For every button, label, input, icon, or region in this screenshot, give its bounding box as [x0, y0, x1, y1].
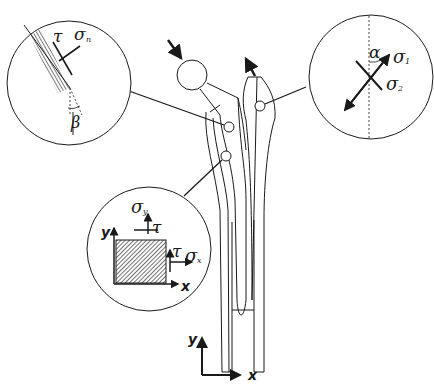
alpha-label: α [369, 42, 381, 62]
beta-label: β [70, 113, 80, 132]
detail-right: α σ 1 σ 2 [309, 15, 433, 139]
sigma-x-subscript: x [197, 256, 202, 265]
muscle-force-arrow [246, 59, 255, 76]
point-bottom [221, 151, 231, 161]
tau-label: τ [53, 26, 63, 46]
detail-left: τ σ n β [7, 21, 131, 145]
global-x-label: x [247, 367, 258, 383]
sigma-n-label: σ [74, 24, 86, 44]
leader-right [265, 87, 306, 104]
sigma1-subscript: 1 [405, 57, 410, 66]
point-left [224, 122, 234, 132]
tau-right-label: τ [172, 241, 182, 261]
point-right [255, 101, 265, 111]
detail-bottom: y x σ y τ τ σ x [87, 187, 211, 311]
sigma-y-subscript: y [142, 207, 148, 216]
femoral-head [177, 60, 207, 90]
leader-bottom [184, 160, 222, 196]
global-y-label: y [188, 331, 198, 347]
sigma-n-subscript: n [86, 35, 91, 44]
leader-left [129, 91, 224, 125]
local-y-label: y [101, 224, 111, 240]
sigma2-subscript: 2 [397, 84, 403, 93]
local-x-label: x [180, 278, 191, 294]
global-axes: y x [188, 331, 258, 383]
tau-top-label: τ [152, 217, 162, 237]
load-arrow [168, 40, 181, 58]
hip-implant-stress-diagram: τ σ n β α σ 1 σ 2 y x σ y τ τ σ x [0, 0, 434, 387]
